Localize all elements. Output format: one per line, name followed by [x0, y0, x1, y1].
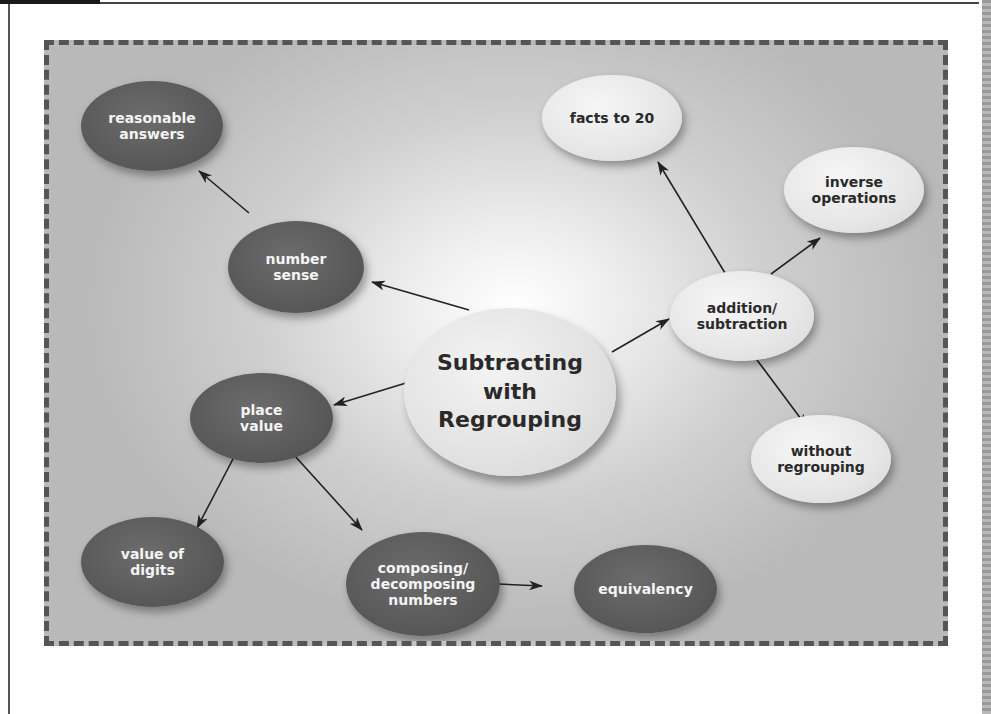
- edge-center-to-number-sense: [372, 282, 469, 310]
- node-place-value: place value: [190, 373, 333, 463]
- node-reasonable-answers: reasonable answers: [81, 81, 223, 171]
- node-inverse-operations: inverse operations: [784, 147, 924, 233]
- edge-addition-to-inverse-operations: [771, 238, 820, 274]
- node-addition-subtraction: addition/ subtraction: [670, 271, 814, 361]
- edge-place-value-to-value-of-digits: [197, 457, 234, 528]
- node-number-sense: number sense: [228, 221, 364, 313]
- page-edge-strip: [982, 0, 991, 714]
- edge-center-to-addition-subtraction: [612, 319, 669, 352]
- top-rule: [100, 2, 979, 4]
- node-facts-to-20: facts to 20: [542, 75, 682, 161]
- node-subtracting-with-regrouping: Subtracting with Regrouping: [404, 308, 616, 476]
- edge-place-value-to-composing: [294, 455, 362, 530]
- left-rule: [8, 4, 10, 714]
- node-without-regrouping: without regrouping: [751, 415, 891, 503]
- page-corner-tab: [0, 0, 100, 4]
- edge-center-to-place-value: [334, 383, 406, 405]
- node-composing-decomposing-numbers: composing/ decomposing numbers: [346, 532, 500, 636]
- edge-addition-to-facts-to-20: [658, 162, 725, 273]
- concept-map-frame: reasonable answers number sense Subtract…: [44, 40, 948, 646]
- node-value-of-digits: value of digits: [81, 517, 224, 607]
- node-equivalency: equivalency: [574, 545, 717, 633]
- edge-number-sense-to-reasonable-answers: [199, 171, 249, 213]
